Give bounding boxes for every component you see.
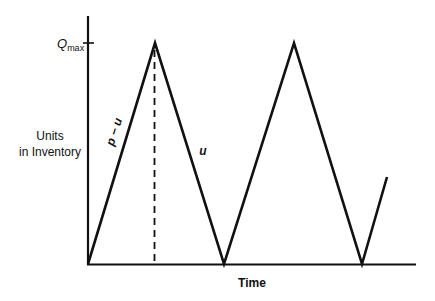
inventory-sawtooth-diagram: Qmax Units in Inventory Time p − u u bbox=[0, 0, 435, 301]
inventory-level-line bbox=[88, 43, 387, 264]
rising-slope-label: p − u bbox=[103, 115, 126, 148]
qmax-label: Qmax bbox=[57, 36, 85, 53]
y-axis-title-line1: Units bbox=[36, 129, 63, 143]
falling-slope-label: u bbox=[199, 144, 207, 158]
x-axis-title: Time bbox=[238, 276, 266, 290]
y-axis-title-line2: in Inventory bbox=[19, 145, 81, 159]
